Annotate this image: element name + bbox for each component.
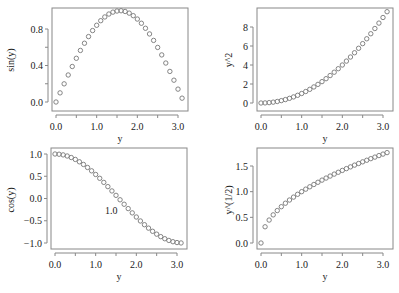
data-point <box>271 213 275 217</box>
data-point <box>263 225 267 229</box>
y-tick-label: 0.5 <box>236 212 249 223</box>
data-point <box>78 48 82 52</box>
data-point <box>155 45 159 49</box>
data-point <box>127 11 131 15</box>
data-point <box>99 18 103 22</box>
data-point <box>77 160 81 164</box>
data-point <box>143 26 147 30</box>
data-point <box>365 37 369 41</box>
data-point <box>122 202 126 206</box>
x-tick-label: 3.0 <box>172 121 185 132</box>
x-tick-label: 1.0 <box>295 121 308 132</box>
data-point <box>94 23 98 27</box>
data-point <box>328 73 332 77</box>
y-tick-label: 1.5 <box>236 161 249 172</box>
data-point <box>126 206 130 210</box>
data-point <box>385 150 389 154</box>
plot-frame <box>52 8 188 111</box>
data-point <box>82 41 86 45</box>
data-point <box>348 55 352 59</box>
data-point <box>74 56 78 60</box>
data-point <box>85 165 89 169</box>
data-point <box>168 69 172 73</box>
data-point <box>90 28 94 32</box>
data-point <box>134 215 138 219</box>
data-point <box>340 63 344 67</box>
x-tick-label: 0.0 <box>50 121 63 132</box>
data-point <box>70 64 74 68</box>
data-point <box>385 10 389 14</box>
data-point <box>304 187 308 191</box>
x-tick-label: 2.0 <box>336 259 349 270</box>
x-tick-label: 0.0 <box>49 259 62 270</box>
x-tick-label: 0.0 <box>255 121 268 132</box>
data-point <box>287 198 291 202</box>
y-tick-label: 0.0 <box>236 238 249 249</box>
data-point <box>283 201 287 205</box>
data-point <box>308 87 312 91</box>
x-tick-label: 1.0 <box>295 259 308 270</box>
data-point <box>89 169 93 173</box>
cos-annotation: 1.0 <box>105 205 118 216</box>
y-tick-label: 0 <box>243 98 248 109</box>
data-point <box>279 205 283 209</box>
data-point <box>146 226 150 230</box>
x-axis-label: y <box>118 133 123 144</box>
data-point <box>336 67 340 71</box>
plot-frame <box>257 8 393 111</box>
data-point <box>369 32 373 36</box>
data-point <box>54 100 58 104</box>
y-tick-label: 2 <box>243 79 248 90</box>
data-point <box>259 241 263 245</box>
x-tick-label: 0.0 <box>255 259 268 270</box>
data-point <box>86 34 90 38</box>
x-tick-label: 3.0 <box>377 259 390 270</box>
y-tick-label: 1.0 <box>30 149 43 160</box>
data-point <box>139 21 143 25</box>
data-point <box>130 211 134 215</box>
data-point <box>131 13 135 17</box>
data-point <box>299 189 303 193</box>
plot-frame <box>257 148 393 249</box>
data-point <box>106 184 110 188</box>
y-tick-label: 0.8 <box>31 24 44 35</box>
y-tick-label: 0.5 <box>30 171 43 182</box>
x-axis-label: y <box>323 271 328 282</box>
data-point <box>332 70 336 74</box>
data-point <box>172 78 176 82</box>
x-axis-label: y <box>323 133 328 144</box>
data-point <box>98 176 102 180</box>
data-point <box>180 96 184 100</box>
plot-frame <box>51 148 187 249</box>
y-tick-label: −0.5 <box>24 215 42 226</box>
y-tick-label: 0.4 <box>31 60 44 71</box>
y-tick-label: 8 <box>243 22 248 33</box>
data-point <box>58 91 62 95</box>
y-axis-label: y^2 <box>223 53 234 68</box>
data-point <box>267 218 271 222</box>
y-tick-label: 0.0 <box>30 193 43 204</box>
y-tick-label: 6 <box>243 41 248 52</box>
data-point <box>110 189 114 193</box>
panel-sin: 0.01.02.03.0y0.00.40.8sin(y) <box>5 8 188 144</box>
x-tick-label: 2.0 <box>131 121 144 132</box>
data-point <box>114 193 118 197</box>
data-point <box>66 73 70 77</box>
data-point <box>316 82 320 86</box>
data-point <box>381 15 385 19</box>
data-point <box>360 41 364 45</box>
data-point <box>73 157 77 161</box>
data-point <box>147 32 151 36</box>
data-point <box>62 82 66 86</box>
y-tick-label: 1.0 <box>236 186 249 197</box>
data-point <box>102 180 106 184</box>
data-point <box>135 17 139 21</box>
data-point <box>81 162 85 166</box>
data-point <box>160 53 164 57</box>
y-axis-label: y^(1/2) <box>223 185 235 214</box>
data-point <box>324 76 328 80</box>
data-point <box>103 15 107 19</box>
y-tick-label: −1.0 <box>24 238 42 249</box>
x-tick-label: 3.0 <box>377 121 390 132</box>
figure-canvas: 0.01.02.03.0y0.00.40.8sin(y) 0.01.02.03.… <box>0 0 399 293</box>
